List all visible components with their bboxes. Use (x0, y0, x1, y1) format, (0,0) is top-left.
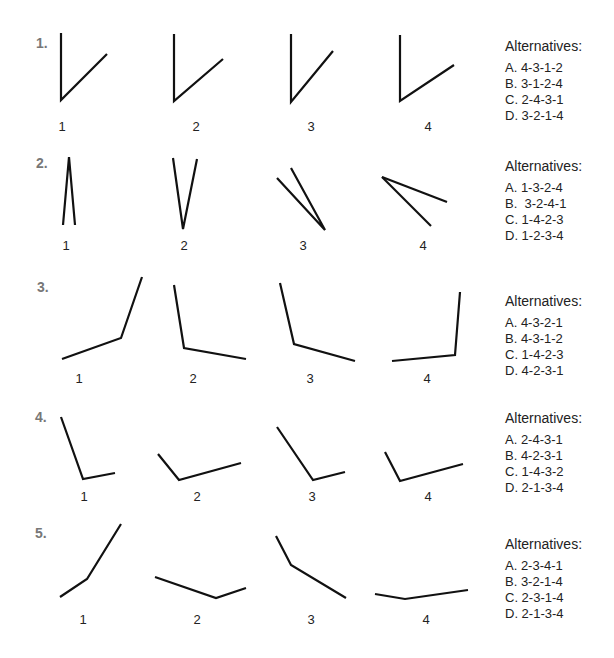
figure-label: 3 (301, 119, 321, 134)
option-a[interactable]: A. 4-3-2-1 (505, 315, 582, 331)
q1-figure-2 (174, 34, 223, 101)
figure-label: 4 (418, 119, 438, 134)
option-d[interactable]: D. 2-1-3-4 (505, 480, 582, 496)
option-c[interactable]: C. 1-4-3-2 (505, 464, 582, 480)
q3-figure-4 (392, 292, 460, 361)
q4-figure-1 (61, 417, 115, 479)
figure-label: 4 (413, 238, 433, 253)
q4-figure-4 (385, 452, 463, 481)
q2-figure-4 (382, 177, 447, 202)
question-number: 1. (36, 35, 48, 51)
option-a[interactable]: A. 2-4-3-1 (505, 432, 582, 448)
option-c[interactable]: C. 2-4-3-1 (505, 92, 582, 108)
figure-label: 1 (56, 238, 76, 253)
q4-figure-3 (277, 427, 345, 480)
figure-label: 3 (301, 612, 321, 627)
q5-figure-3 (276, 536, 346, 598)
question-number: 5. (35, 525, 47, 541)
q1-figure-4 (400, 35, 454, 101)
figure-label: 3 (293, 238, 313, 253)
q5-figure-2 (155, 577, 246, 598)
q2-figure-2 (173, 158, 197, 229)
alternatives-title: Alternatives: (505, 158, 582, 174)
question-number: 4. (35, 409, 47, 425)
figure-label: 3 (302, 489, 322, 504)
q1-figure-1 (61, 33, 107, 100)
option-b[interactable]: B. 3-2-4-1 (505, 196, 582, 212)
q3-figure-1 (62, 277, 142, 359)
alternatives-title: Alternatives: (505, 410, 582, 426)
option-c[interactable]: C. 1-4-2-3 (505, 347, 582, 363)
q4-figure-2 (158, 454, 241, 480)
figure-label: 2 (187, 489, 207, 504)
q2-figure-3 (277, 168, 325, 230)
option-a[interactable]: A. 4-3-1-2 (505, 60, 582, 76)
figure-label: 4 (417, 371, 437, 386)
alternatives-box: Alternatives: A. 1-3-2-4 B. 3-2-4-1 C. 1… (505, 158, 582, 244)
option-c[interactable]: C. 1-4-2-3 (505, 212, 582, 228)
q3-figure-2 (174, 285, 246, 359)
option-b[interactable]: B. 4-2-3-1 (505, 448, 582, 464)
option-d[interactable]: D. 3-2-1-4 (505, 108, 582, 124)
q2-figure-1 (63, 157, 75, 225)
q2-figure-4b (382, 177, 431, 226)
alternatives-box: Alternatives: A. 4-3-2-1 B. 4-3-1-2 C. 1… (505, 293, 582, 379)
figure-label: 3 (300, 371, 320, 386)
option-b[interactable]: B. 4-3-1-2 (505, 331, 582, 347)
figure-label: 1 (52, 119, 72, 134)
alternatives-box: Alternatives: A. 2-4-3-1 B. 4-2-3-1 C. 1… (505, 410, 582, 496)
figure-label: 1 (74, 489, 94, 504)
alternatives-title: Alternatives: (505, 293, 582, 309)
question-number: 3. (37, 279, 49, 295)
q3-figure-3 (280, 283, 355, 361)
q1-figure-3 (291, 34, 333, 102)
figure-label: 1 (69, 371, 89, 386)
alternatives-title: Alternatives: (505, 536, 582, 552)
figure-label: 4 (416, 612, 436, 627)
option-a[interactable]: A. 2-3-4-1 (505, 558, 582, 574)
option-b[interactable]: B. 3-2-1-4 (505, 574, 582, 590)
option-d[interactable]: D. 1-2-3-4 (505, 228, 582, 244)
figure-label: 1 (73, 612, 93, 627)
alternatives-title: Alternatives: (505, 38, 582, 54)
figure-label: 2 (187, 612, 207, 627)
figure-label: 2 (183, 371, 203, 386)
alternatives-box: Alternatives: A. 2-3-4-1 B. 3-2-1-4 C. 2… (505, 536, 582, 622)
option-b[interactable]: B. 3-1-2-4 (505, 76, 582, 92)
figure-label: 2 (174, 238, 194, 253)
figure-label: 2 (186, 119, 206, 134)
q5-figure-4 (375, 590, 468, 599)
question-number: 2. (36, 155, 48, 171)
option-d[interactable]: D. 4-2-3-1 (505, 363, 582, 379)
alternatives-box: Alternatives: A. 4-3-1-2 B. 3-1-2-4 C. 2… (505, 38, 582, 124)
figure-label: 4 (418, 489, 438, 504)
option-a[interactable]: A. 1-3-2-4 (505, 180, 582, 196)
q5-figure-1 (60, 524, 121, 597)
option-c[interactable]: C. 2-3-1-4 (505, 590, 582, 606)
option-d[interactable]: D. 2-1-3-4 (505, 606, 582, 622)
